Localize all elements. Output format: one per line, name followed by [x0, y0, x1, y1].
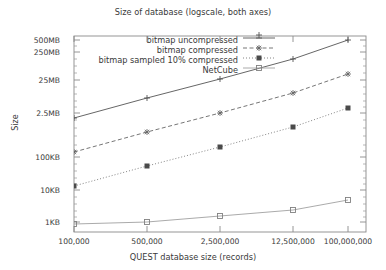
- series-bitmap-uncompressed: [71, 37, 351, 121]
- legend-key-netcube: [243, 66, 275, 71]
- series-line-bitmap-compressed: [74, 74, 348, 152]
- x-major-ticks: [74, 36, 348, 232]
- series-line-bitmap-sampled: [74, 108, 348, 186]
- y-major-ticks: [74, 40, 366, 222]
- series-line-netcube: [74, 200, 348, 224]
- legend-keys: [243, 32, 275, 71]
- series-markers-bitmap-sampled: [72, 106, 351, 189]
- legend-key-bitmap-compressed: [243, 45, 275, 51]
- legend-key-bitmap-sampled: [243, 56, 275, 61]
- series-netcube: [72, 198, 351, 227]
- chart-figure: Size of database (logscale, both axes) S…: [0, 0, 386, 270]
- series-markers-bitmap-uncompressed: [71, 37, 351, 121]
- y-minor-ticks: [74, 46, 366, 217]
- series-bitmap-sampled-10pct-compressed: [72, 106, 351, 189]
- legend-key-bitmap-uncompressed: [243, 32, 275, 38]
- series-markers-bitmap-compressed: [71, 71, 351, 155]
- series-markers-netcube: [72, 198, 351, 227]
- series-line-bitmap-uncompressed: [74, 40, 348, 118]
- series-bitmap-compressed: [71, 71, 351, 155]
- plot-frame: [74, 36, 366, 232]
- plot-area: [0, 0, 386, 270]
